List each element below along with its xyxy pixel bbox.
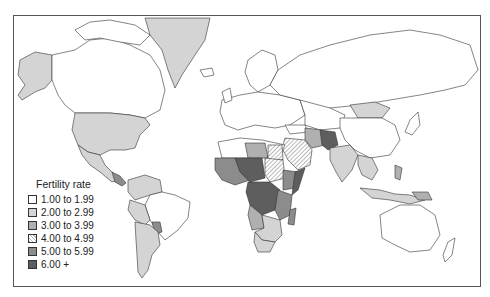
- region-canada: [52, 38, 165, 118]
- legend-label: 5.00 to 5.99: [41, 246, 94, 257]
- hatched-swatch-icon: [28, 234, 37, 243]
- legend-title: Fertility rate: [36, 178, 94, 190]
- legend-item-4: 4.00 to 4.99: [28, 232, 94, 245]
- region-egypt: [268, 145, 283, 160]
- region-philippines: [395, 165, 402, 180]
- legend-label: 6.00 +: [41, 259, 69, 270]
- legend-item-3: 3.00 to 3.99: [28, 219, 94, 232]
- region-turkey: [285, 125, 308, 134]
- region-iceland: [200, 68, 214, 77]
- region-argentina-chile: [135, 222, 160, 278]
- legend-item-2: 2.00 to 2.99: [28, 206, 94, 219]
- region-sudan: [265, 158, 285, 182]
- legend-label: 3.00 to 3.99: [41, 220, 94, 231]
- legend-label: 4.00 to 4.99: [41, 233, 94, 244]
- region-japan: [405, 112, 420, 135]
- region-libya: [245, 143, 268, 158]
- region-india: [330, 145, 358, 182]
- region-mongolia: [350, 102, 390, 118]
- swatch-icon: [28, 260, 37, 269]
- region-central-america: [112, 172, 126, 186]
- legend-label: 1.00 to 1.99: [41, 194, 94, 205]
- legend-item-5: 5.00 to 5.99: [28, 245, 94, 258]
- region-alaska: [18, 52, 52, 100]
- legend-item-6: 6.00 +: [28, 258, 94, 271]
- region-nz: [443, 238, 455, 262]
- swatch-icon: [28, 221, 37, 230]
- region-russia: [270, 30, 478, 112]
- legend-label: 2.00 to 2.99: [41, 207, 94, 218]
- region-australia: [380, 205, 440, 252]
- region-se-asia: [358, 155, 378, 180]
- swatch-icon: [28, 195, 37, 204]
- swatch-icon: [28, 247, 37, 256]
- legend: Fertility rate 1.00 to 1.99 2.00 to 2.99…: [28, 178, 94, 271]
- swatch-icon: [28, 208, 37, 217]
- legend-item-1: 1.00 to 1.99: [28, 193, 94, 206]
